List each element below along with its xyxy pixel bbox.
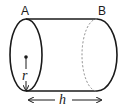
label-r: r [22,68,28,83]
label-b: B [98,4,106,18]
label-a: A [21,4,29,18]
cylinder-diagram: A B r h [0,0,122,110]
right-face-arc [97,19,117,91]
hidden-back-arc [82,19,97,91]
label-h: h [59,92,66,107]
